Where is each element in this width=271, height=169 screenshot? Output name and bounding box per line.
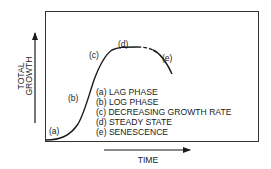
phase-marker-d: (d) — [118, 39, 129, 49]
phase-marker-c: (c) — [89, 50, 99, 60]
growth-curve-diagram: TOTAL GROWTH TIME (a) (b) (c) (d) (e) (a… — [0, 0, 271, 169]
growth-curve-dashed — [137, 47, 153, 50]
legend-item-senescence: (e) SENESCENCE — [96, 127, 168, 137]
phase-marker-b: (b) — [68, 93, 79, 103]
legend-item-log: (b) LOG PHASE — [96, 97, 159, 107]
phase-marker-a: (a) — [49, 126, 60, 136]
legend-item-decreasing: (c) DECREASING GROWTH RATE — [96, 107, 232, 117]
x-axis-label: TIME — [138, 155, 159, 165]
y-axis-label-line2: GROWTH — [24, 56, 34, 95]
phase-marker-e: (e) — [162, 53, 173, 63]
legend-item-steady: (d) STEADY STATE — [96, 117, 172, 127]
legend: (a) LAG PHASE (b) LOG PHASE (c) DECREASI… — [96, 87, 232, 137]
legend-item-lag: (a) LAG PHASE — [96, 87, 158, 97]
